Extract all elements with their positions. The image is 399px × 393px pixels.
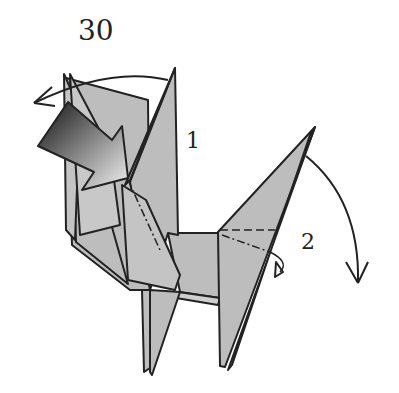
curved-arrow-down-icon xyxy=(306,156,368,283)
origami-diagram xyxy=(0,0,399,393)
step-number: 30 xyxy=(78,14,114,47)
front-legs xyxy=(142,290,180,375)
fold-label-2: 2 xyxy=(301,229,315,254)
fold-label-1: 1 xyxy=(186,128,200,153)
